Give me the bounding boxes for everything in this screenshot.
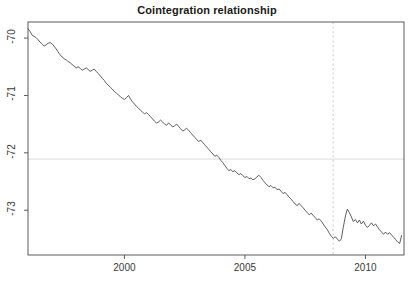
y-tick-label: -72	[6, 136, 17, 166]
y-tick-label: -71	[6, 79, 17, 109]
x-tick-label: 2010	[345, 262, 385, 273]
axis-ticks	[24, 38, 365, 259]
plot-area	[0, 0, 414, 285]
y-tick-label: -70	[6, 22, 17, 52]
axis-box	[28, 22, 404, 255]
y-tick-label: -73	[6, 194, 17, 224]
series-line-cointegration-residual	[28, 29, 402, 244]
chart-root: Cointegration relationship -70-71-72-73 …	[0, 0, 414, 285]
x-tick-label: 2005	[225, 262, 265, 273]
x-tick-label: 2000	[104, 262, 144, 273]
